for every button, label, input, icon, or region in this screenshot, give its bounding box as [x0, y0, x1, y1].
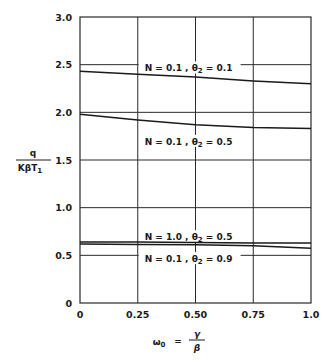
- x-tick-label: 0.25: [126, 309, 149, 320]
- y-axis-title-numerator: q: [30, 148, 36, 158]
- y-axis-title: q KβT1: [16, 148, 51, 175]
- y-axis-title-denominator: KβT1: [18, 163, 43, 175]
- series-labels: N = 0.1 , θ2 = 0.1N = 0.1 , θ2 = 0.5N = …: [145, 63, 233, 266]
- x-axis-title-sub: 0: [160, 341, 165, 349]
- chart: 00.51.01.52.02.53.0 00.250.500.751.0 N =…: [0, 0, 330, 361]
- x-axis-title-omega: ω: [153, 337, 161, 347]
- x-tick-label: 0.75: [242, 309, 265, 320]
- series-label: N = 0.1 , θ2 = 0.9: [145, 254, 233, 266]
- x-axis-title-denominator: β: [193, 343, 200, 353]
- y-tick-label: 2.5: [55, 59, 72, 70]
- series-label: N = 0.1 , θ2 = 0.5: [145, 137, 233, 149]
- y-axis-ticks: 00.51.01.52.02.53.0: [55, 12, 72, 309]
- x-axis-title-numerator: γ: [194, 329, 201, 339]
- y-axis-title-den-sub: 1: [37, 167, 42, 175]
- y-tick-label: 1.5: [55, 155, 72, 166]
- x-tick-label: 0: [77, 309, 84, 320]
- y-axis-title-den-main: KβT: [18, 163, 38, 173]
- y-tick-label: 0: [65, 298, 72, 309]
- y-tick-label: 3.0: [55, 12, 72, 23]
- x-axis-title-main: ω0: [153, 337, 166, 349]
- y-tick-label: 2.0: [55, 107, 72, 118]
- x-tick-label: 1.0: [303, 309, 320, 320]
- series-label: N = 0.1 , θ2 = 0.1: [145, 63, 233, 75]
- x-tick-label: 0.50: [184, 309, 208, 320]
- y-tick-label: 1.0: [55, 202, 72, 213]
- x-axis-ticks: 00.250.500.751.0: [77, 309, 320, 320]
- x-axis-title: ω0 = γ β: [153, 329, 205, 353]
- y-tick-label: 0.5: [55, 250, 72, 261]
- x-axis-title-equals: =: [174, 336, 182, 346]
